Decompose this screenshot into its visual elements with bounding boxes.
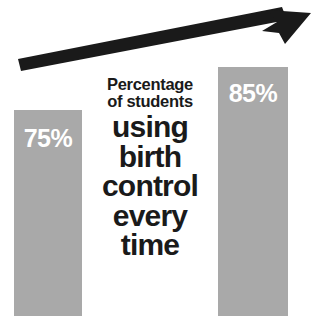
caption-big-line-5: time	[80, 230, 220, 260]
caption-big-line-2: birth	[80, 142, 220, 172]
bar-value-label-right: 85%	[218, 81, 288, 106]
infographic-bar-chart: 75% 85% Percentage of students using bir…	[0, 0, 317, 333]
caption-big-line-3: control	[80, 171, 220, 201]
caption-title: using birth control every time	[80, 112, 220, 260]
caption-subtitle: Percentage of students	[80, 76, 220, 110]
bar-85-percent: 85%	[218, 67, 288, 316]
caption-small-line-2: of students	[80, 93, 220, 110]
caption-big-line-1: using	[80, 112, 220, 142]
caption-small-line-1: Percentage	[80, 76, 220, 93]
bar-75-percent: 75%	[14, 110, 82, 316]
chart-caption: Percentage of students using birth contr…	[80, 76, 220, 260]
bar-value-label-left: 75%	[14, 126, 82, 151]
arrow-shaft-icon	[18, 7, 287, 71]
caption-big-line-4: every	[80, 201, 220, 231]
